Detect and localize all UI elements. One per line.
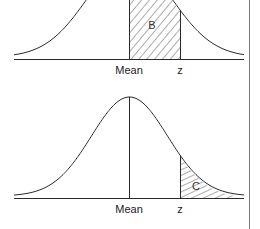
z-label-top: z [177, 64, 183, 76]
top-panel: B Mean z [14, 0, 244, 76]
shaded-region-c [181, 158, 236, 198]
z-label-bottom: z [177, 203, 183, 215]
mean-label-bottom: Mean [115, 203, 143, 215]
mean-label-top: Mean [115, 64, 143, 76]
normal-curves-diagram: B Mean z C Mean z [0, 0, 260, 229]
region-label-b: B [148, 19, 155, 31]
region-label-c: C [192, 180, 200, 192]
bottom-panel: C Mean z [14, 97, 244, 215]
